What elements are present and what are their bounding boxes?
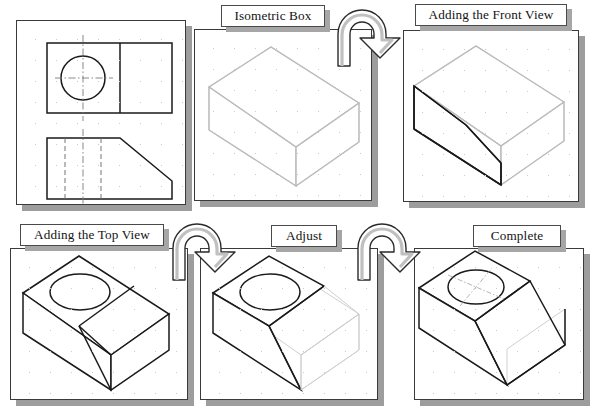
orthographic-drawing (17, 21, 186, 205)
arrow-step5-to-step6 (350, 222, 430, 282)
panel-3-front-view-added (403, 30, 579, 202)
panel-4-top-view-added (10, 248, 188, 400)
label-complete: Complete (473, 225, 561, 247)
front-view-added-drawing (404, 31, 579, 202)
label-isometric-box: Isometric Box (221, 5, 325, 27)
complete-drawing (415, 249, 584, 400)
top-view-added-drawing (11, 249, 188, 400)
panel-1-orthographic-views (16, 20, 186, 205)
label-adding-top-view: Adding the Top View (20, 224, 164, 246)
label-text: Isometric Box (234, 8, 311, 24)
label-text: Adjust (286, 228, 322, 244)
arrow-step2-to-step3 (330, 8, 410, 68)
figure-canvas: Isometric Box Adding the Front View (0, 0, 594, 413)
label-text: Complete (491, 228, 543, 244)
label-adding-front-view: Adding the Front View (415, 4, 567, 26)
arrow-step4-to-step5 (165, 222, 245, 282)
label-text: Adding the Front View (429, 7, 554, 23)
label-text: Adding the Top View (34, 227, 150, 243)
panel-6-complete (414, 248, 584, 400)
label-adjust: Adjust (271, 225, 337, 247)
